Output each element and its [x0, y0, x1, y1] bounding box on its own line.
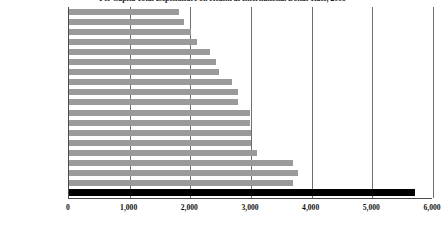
- bar-row: [69, 47, 432, 58]
- x-axis-tick-label: 6,000: [423, 203, 440, 212]
- bar: [69, 170, 298, 176]
- bar-row: [69, 87, 432, 98]
- bar: [69, 99, 238, 105]
- bar: [69, 79, 232, 85]
- bar: [69, 69, 219, 75]
- bar: [69, 89, 238, 95]
- x-axis-line: [68, 198, 432, 199]
- bar: [69, 59, 216, 65]
- bar-row: [69, 37, 432, 48]
- x-axis-tick-label: 3,000: [241, 203, 258, 212]
- bar: [69, 49, 210, 55]
- bar-row: [69, 77, 432, 88]
- bar: [69, 19, 184, 25]
- x-axis-tick-label: 4,000: [302, 203, 319, 212]
- bar: [69, 189, 415, 196]
- x-axis-tick-label: 0: [66, 203, 70, 212]
- bar-row: [69, 118, 432, 129]
- bar-row: [69, 178, 432, 189]
- bar-row: [69, 168, 432, 179]
- chart-title: Per Capita Total Expenditure on Health a…: [0, 0, 445, 3]
- bar-row: [69, 108, 432, 119]
- bar-row: [69, 7, 432, 18]
- bar-row: [69, 27, 432, 38]
- bar-row: [69, 128, 432, 139]
- bar: [69, 110, 250, 116]
- bar-row: [69, 67, 432, 78]
- bar: [69, 180, 293, 186]
- bar: [69, 29, 191, 35]
- bar-row: [69, 57, 432, 68]
- plot-area: [68, 7, 432, 198]
- gridline: [433, 7, 434, 198]
- bar: [69, 150, 257, 156]
- x-axis-tick-label: 2,000: [181, 203, 198, 212]
- bar: [69, 160, 293, 166]
- bar-row: [69, 158, 432, 169]
- chart-container: Per Capita Total Expenditure on Health a…: [0, 0, 445, 232]
- bar-row: [69, 138, 432, 149]
- bar-row: [69, 97, 432, 108]
- bar-row: [69, 188, 432, 199]
- bar: [69, 120, 250, 126]
- bar: [69, 140, 251, 146]
- bar: [69, 9, 179, 15]
- bar-row: [69, 17, 432, 28]
- bar: [69, 130, 251, 136]
- bar-row: [69, 148, 432, 159]
- x-axis-tick-label: 5,000: [363, 203, 380, 212]
- bar: [69, 39, 197, 45]
- x-axis-tick-label: 1,000: [120, 203, 137, 212]
